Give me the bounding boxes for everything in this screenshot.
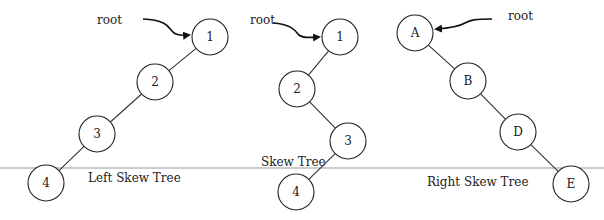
- tree-node-E: E: [553, 166, 589, 202]
- tree-caption: Left Skew Tree: [88, 171, 181, 185]
- root-label: root: [508, 9, 533, 23]
- skew-tree: 1234rootSkew Tree: [250, 13, 366, 210]
- tree-node-A: A: [397, 15, 433, 51]
- root-arrow-middle: [273, 23, 319, 38]
- tree-node-3: 3: [330, 123, 366, 159]
- tree-node-2: 2: [279, 71, 315, 107]
- node-label: E: [567, 177, 576, 191]
- node-label: 4: [42, 176, 50, 190]
- tree-edge: [308, 51, 328, 75]
- node-label: 3: [344, 134, 352, 148]
- tree-node-3: 3: [79, 116, 115, 152]
- tree-node-4: 4: [28, 165, 64, 201]
- tree-edge: [310, 102, 336, 128]
- tree-caption: Right Skew Tree: [427, 175, 529, 189]
- root-arrow-left: [143, 19, 189, 35]
- node-label: D: [513, 125, 523, 139]
- node-label: 2: [293, 82, 301, 96]
- tree-node-1: 1: [322, 19, 358, 55]
- node-label: A: [410, 26, 420, 40]
- node-label: 2: [151, 75, 159, 89]
- node-label: 1: [206, 30, 214, 44]
- node-label: 4: [292, 185, 300, 199]
- tree-node-B: B: [450, 63, 486, 99]
- tree-node-D: D: [500, 114, 536, 150]
- tree-node-1: 1: [192, 19, 228, 55]
- tree-caption: Skew Tree: [261, 155, 326, 169]
- tree-edge: [169, 48, 196, 70]
- tree-edge: [110, 94, 141, 122]
- root-arrow-right: [436, 19, 492, 29]
- tree-edge: [428, 45, 454, 69]
- tree-edge: [481, 94, 506, 119]
- tree-node-4: 4: [278, 174, 314, 210]
- root-label: root: [250, 13, 275, 27]
- node-label: 1: [336, 30, 344, 44]
- left-skew-tree: 1234rootLeft Skew Tree: [28, 13, 228, 201]
- node-label: B: [464, 74, 473, 88]
- root-label: root: [97, 13, 122, 27]
- right-skew-tree: ABDErootRight Skew Tree: [397, 9, 589, 202]
- tree-edge: [59, 146, 84, 170]
- node-label: 3: [93, 127, 101, 141]
- skew-tree-diagram: 1234rootLeft Skew Tree1234rootSkew TreeA…: [0, 0, 604, 220]
- tree-node-2: 2: [137, 64, 173, 100]
